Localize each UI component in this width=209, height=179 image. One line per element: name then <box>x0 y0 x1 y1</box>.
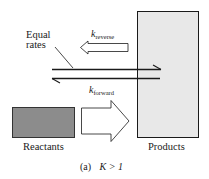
caption-prefix: (a) <box>80 161 91 172</box>
reactants-label: Reactants <box>23 142 64 152</box>
caption-condition: K > 1 <box>100 161 123 172</box>
equal-rates-label-line2: rates <box>26 40 46 50</box>
products-label: Products <box>148 142 185 152</box>
k-reverse-label: kreverse <box>91 29 114 42</box>
k-reverse-subscript: reverse <box>95 33 114 40</box>
forward-arrow-icon <box>82 101 130 142</box>
equal-rates-pointer <box>55 47 73 68</box>
k-forward-label: kforward <box>89 85 114 98</box>
k-forward-subscript: forward <box>93 89 114 96</box>
reactants-box <box>13 108 75 138</box>
caption: (a) K > 1 <box>80 162 123 172</box>
products-box <box>138 12 199 138</box>
reverse-arrow-icon <box>81 41 129 54</box>
